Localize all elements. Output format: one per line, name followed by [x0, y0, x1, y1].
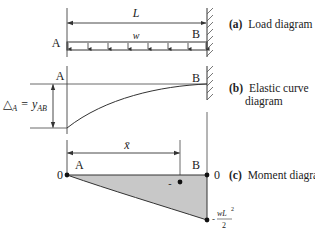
span-label: L: [132, 6, 140, 20]
svg-text:2: 2: [231, 206, 234, 212]
centroid-dot: [178, 180, 183, 185]
caption-load-diagram: (a) Load diagram: [229, 18, 313, 31]
centroid-distance-label: x̄: [123, 138, 130, 152]
load-diagram: L w A B (a): [52, 6, 313, 57]
beam-diagram: L w A B (a): [0, 0, 315, 232]
fixed-wall-support: [207, 8, 213, 57]
min-moment-value: - wL 2 2: [212, 206, 234, 230]
point-b-dot: [205, 173, 210, 178]
svg-text:-: -: [212, 214, 215, 224]
caption-elastic-curve-line2: diagram: [245, 95, 283, 108]
point-a-label: A: [52, 36, 61, 50]
load-label: w: [133, 30, 140, 41]
svg-text:2: 2: [222, 221, 226, 230]
deflection-equation: △A=yAB: [3, 97, 47, 113]
moment-diagram: x̄ - A B 0 0 - wL 2 2 (c) Moment diagram: [57, 112, 315, 230]
point-b-label: B: [192, 71, 200, 85]
point-a-label: A: [75, 158, 84, 172]
sign-label: -: [168, 178, 171, 189]
point-a-dot: [65, 173, 70, 178]
fixed-wall-support: [207, 66, 213, 100]
point-b-label: B: [192, 158, 200, 172]
distributed-load-arrows: [68, 43, 206, 49]
point-a-label: A: [56, 69, 65, 83]
left-zero-label: 0: [57, 168, 63, 182]
caption-moment-diagram: (c) Moment diagram: [229, 169, 315, 182]
point-b-label: B: [192, 27, 200, 41]
svg-text:wL: wL: [217, 209, 227, 218]
min-moment-dot: [205, 218, 210, 223]
moment-area: [67, 175, 207, 220]
elastic-curve-diagram: A B △A=yAB (b) Elastic curve diagram: [3, 66, 309, 128]
right-zero-label: 0: [214, 168, 220, 182]
elastic-curve: [67, 84, 207, 128]
caption-elastic-curve: (b) Elastic curve: [229, 82, 309, 95]
